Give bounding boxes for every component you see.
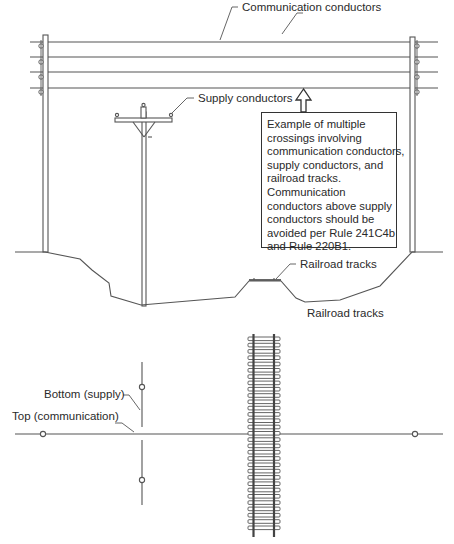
callout-line: Communication <box>267 186 392 200</box>
callout-line: communication conductors, <box>267 145 392 159</box>
plan-supply-pole-upper <box>139 384 144 389</box>
supply-pole <box>115 103 173 306</box>
callout-line: avoided per Rule 241C4b <box>267 227 392 241</box>
plan-supply-pole-lower <box>139 477 144 482</box>
plan-comm-pole-right <box>412 431 417 436</box>
crossing-diagram-drawing <box>0 0 454 544</box>
plan-railroad-tracks-label: Railroad tracks <box>307 308 384 320</box>
plan-comm-pole-left <box>40 431 45 436</box>
callout-line: conductors should be <box>267 213 392 227</box>
supply-conductors-label: Supply conductors <box>198 93 293 105</box>
up-arrow-icon <box>296 89 311 112</box>
plan-railroad-tracks <box>248 334 280 537</box>
callout-line: crossings involving <box>267 132 392 146</box>
callout-line: railroad tracks. <box>267 172 392 186</box>
communication-conductors-label: Communication conductors <box>242 2 381 14</box>
communication-conductors <box>30 42 438 88</box>
elevation-railroad-tracks-label: Railroad tracks <box>300 259 377 271</box>
callout-line: and Rule 220B1. <box>267 240 392 254</box>
top-communication-label: Top (communication) <box>12 411 119 423</box>
callout-line: conductors above supply <box>267 200 392 214</box>
callout-line: Example of multiple <box>267 118 392 132</box>
bottom-supply-label: Bottom (supply) <box>44 389 125 401</box>
ground-profile <box>15 252 443 305</box>
callout-line: supply conductors, and <box>267 159 392 173</box>
callout-box: Example of multiple crossings involving … <box>261 112 397 248</box>
left-communication-pole <box>39 35 48 252</box>
right-communication-pole <box>410 37 419 252</box>
